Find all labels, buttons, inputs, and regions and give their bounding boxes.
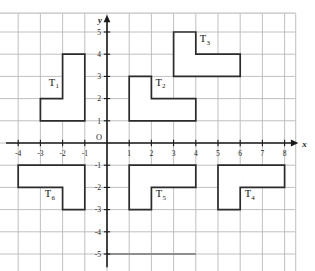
shape-label-t1: T1 xyxy=(49,77,60,91)
y-axis-tick-label: -1 xyxy=(95,161,102,170)
axes xyxy=(6,15,298,268)
x-axis-tick-label: -1 xyxy=(82,149,89,158)
x-axis-tick-label: -3 xyxy=(37,149,44,158)
x-axis-tick-label: 6 xyxy=(238,149,242,158)
y-axis-tick-label: -4 xyxy=(95,228,102,237)
shape-label-subscript: 5 xyxy=(163,194,167,202)
shape-t6[interactable] xyxy=(18,165,85,209)
shape-label-t3: T3 xyxy=(200,33,211,47)
x-axis-tick-label: 3 xyxy=(172,149,176,158)
x-axis-tick-label: 4 xyxy=(194,149,198,158)
x-axis-tick-label: -2 xyxy=(59,149,66,158)
shape-label-t4: T4 xyxy=(245,188,256,202)
coordinate-plane-svg: -4-3-2-11234567854321-1-2-3-4-5OxyT1T2T3… xyxy=(0,0,315,271)
y-axis-arrowhead xyxy=(104,15,111,23)
y-axis-tick-label: -2 xyxy=(95,183,102,192)
y-axis-tick-label: -5 xyxy=(95,250,102,259)
y-axis-tick-label: 4 xyxy=(97,50,101,59)
shape-label-subscript: 4 xyxy=(251,194,255,202)
x-axis-tick-label: -4 xyxy=(15,149,22,158)
grid-lines xyxy=(0,13,296,271)
y-axis-tick-label: 3 xyxy=(97,72,101,81)
y-axis-tick-label: -3 xyxy=(95,205,102,214)
y-axis-tick-label: 2 xyxy=(97,94,101,103)
shape-label-t6: T6 xyxy=(45,188,56,202)
shape-label-subscript: 6 xyxy=(52,194,56,202)
x-axis-tick-label: 8 xyxy=(283,149,287,158)
y-axis-label: y xyxy=(97,15,103,25)
x-axis-arrowhead xyxy=(291,140,299,147)
coordinate-plane-figure: -4-3-2-11234567854321-1-2-3-4-5OxyT1T2T3… xyxy=(0,0,315,271)
x-axis-tick-label: 1 xyxy=(127,149,131,158)
shape-label-t5: T5 xyxy=(156,188,167,202)
shape-t4[interactable] xyxy=(218,165,285,209)
y-axis-tick-label: 1 xyxy=(97,117,101,126)
shape-label-subscript: 3 xyxy=(207,39,211,47)
x-axis-label: x xyxy=(301,139,307,149)
shape-t1[interactable] xyxy=(40,54,84,121)
shape-t5[interactable] xyxy=(129,165,196,209)
shape-label-t2: T2 xyxy=(155,77,166,91)
origin-label: O xyxy=(96,133,102,142)
x-axis-tick-label: 2 xyxy=(150,149,154,158)
shape-label-subscript: 2 xyxy=(162,82,166,90)
shape-label-subscript: 1 xyxy=(56,82,60,90)
x-axis-tick-label: 7 xyxy=(261,149,265,158)
x-axis-tick-label: 5 xyxy=(216,149,220,158)
y-axis-tick-label: 5 xyxy=(97,28,101,37)
